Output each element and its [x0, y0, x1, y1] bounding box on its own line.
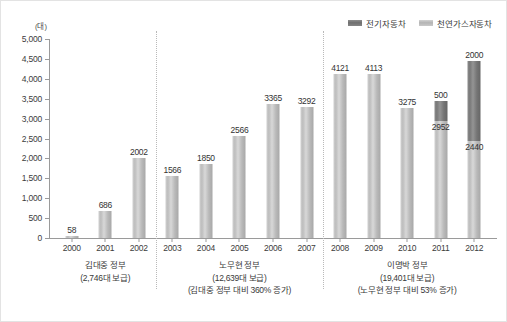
y-axis-tick	[45, 218, 49, 219]
bar-slot[interactable]: 582000	[55, 39, 89, 238]
bar-stack[interactable]: 3275	[401, 108, 414, 238]
y-axis-tick	[45, 119, 49, 120]
bar-stack[interactable]: 686	[99, 211, 112, 238]
bar-segment-cng[interactable]: 3365	[266, 104, 279, 238]
bar-value-label: 3292	[298, 96, 316, 106]
bar-value-label: 2952	[432, 122, 450, 132]
y-axis-tick	[45, 158, 49, 159]
bar-slot[interactable]: 200024402012	[457, 39, 491, 238]
plot-area: 5,0004,5004,0003,5003,0002,5002,0001,500…	[49, 39, 497, 238]
bar-stack[interactable]: 2566	[233, 136, 246, 238]
bar-segment-ev[interactable]: 500	[434, 101, 447, 121]
bar-slot[interactable]: 41132009	[357, 39, 391, 238]
bar-stack[interactable]: 4121	[334, 74, 347, 238]
x-axis-tick	[474, 238, 475, 242]
y-axis-tick	[45, 238, 49, 239]
y-axis-tick-label: 4,000	[22, 74, 42, 84]
bar-slot[interactable]: 6862001	[89, 39, 123, 238]
x-axis-tick-label: 2008	[331, 243, 349, 253]
bar-segment-cng[interactable]: 1566	[166, 176, 179, 238]
y-axis-line	[49, 39, 50, 238]
era-name: 노무현 정부	[156, 259, 324, 272]
bar-stack[interactable]: 1850	[199, 164, 212, 238]
era-total: (12,639대 보급)	[156, 272, 324, 285]
bar-segment-cng[interactable]: 3275	[401, 108, 414, 238]
bar-segment-cng[interactable]: 2952	[434, 121, 447, 238]
legend-label-ev: 전기자동차	[366, 17, 405, 29]
y-axis-tick-label: 0	[37, 233, 42, 243]
x-axis-tick	[138, 238, 139, 242]
era-caption: 노무현 정부(12,639대 보급)(김대중 정부 대비 360% 증가)	[156, 259, 324, 297]
bar-slot[interactable]: 25662005	[223, 39, 257, 238]
bar-slot[interactable]: 50029522011	[424, 39, 458, 238]
y-axis-tick	[45, 198, 49, 199]
y-axis-tick	[45, 79, 49, 80]
era-note: (김대중 정부 대비 360% 증가)	[156, 284, 324, 297]
y-axis-tick	[45, 59, 49, 60]
y-axis-unit-label: (대)	[35, 20, 47, 31]
bar-slot[interactable]: 41212008	[323, 39, 357, 238]
bar-slot[interactable]: 32922007	[290, 39, 324, 238]
bar-slot[interactable]: 20022002	[122, 39, 156, 238]
bar-value-label: 500	[434, 90, 447, 100]
bar-slot[interactable]: 15662003	[156, 39, 190, 238]
y-axis-tick-label: 3,500	[22, 94, 42, 104]
x-axis-tick-label: 2007	[297, 243, 315, 253]
bar-stack[interactable]: 3365	[266, 104, 279, 238]
bar-value-label: 2566	[231, 125, 249, 135]
era-total: (19,401대 보급)	[323, 272, 491, 285]
bar-value-label: 2440	[465, 142, 483, 152]
bar-stack[interactable]: 20002440	[468, 61, 481, 238]
bar-segment-cng[interactable]: 4113	[367, 74, 380, 238]
bar-segment-cng[interactable]: 4121	[334, 74, 347, 238]
bar-segment-cng[interactable]: 686	[99, 211, 112, 238]
x-axis-tick-label: 2005	[230, 243, 248, 253]
era-caption: 김대중 정부(2,746대 보급)	[55, 259, 156, 284]
bar-slot[interactable]: 32752010	[390, 39, 424, 238]
x-axis-tick-label: 2006	[264, 243, 282, 253]
y-axis-tick-label: 2,000	[22, 153, 42, 163]
legend-item-ev: 전기자동차	[348, 17, 405, 29]
bar-value-label: 4121	[331, 63, 349, 73]
x-axis-tick	[340, 238, 341, 242]
bar-segment-cng[interactable]: 2566	[233, 136, 246, 238]
bar-segment-cng[interactable]: 2002	[132, 158, 145, 238]
era-caption: 이명박 정부(19,401대 보급)(노무현 정부 대비 53% 증가)	[323, 259, 491, 297]
y-axis-tick-label: 3,000	[22, 114, 42, 124]
bar-value-label: 4113	[365, 63, 382, 73]
y-axis-tick	[45, 99, 49, 100]
bar-stack[interactable]: 3292	[300, 107, 313, 238]
y-axis-tick	[45, 178, 49, 179]
bar-segment-cng[interactable]: 1850	[199, 164, 212, 238]
bar-segment-ev[interactable]: 2000	[468, 61, 481, 141]
x-axis-tick	[105, 238, 106, 242]
bar-value-label: 686	[99, 200, 112, 210]
era-name: 김대중 정부	[55, 259, 156, 272]
legend-swatch-ev-icon	[348, 20, 362, 26]
y-axis-tick-label: 4,500	[22, 54, 42, 64]
era-note: (노무현 정부 대비 53% 증가)	[323, 284, 491, 297]
x-axis-tick	[239, 238, 240, 242]
y-axis-tick-label: 1,500	[22, 173, 42, 183]
era-divider	[323, 31, 324, 289]
bar-stack[interactable]: 4113	[367, 74, 380, 238]
bar-slot[interactable]: 18502004	[189, 39, 223, 238]
x-axis-tick-label: 2003	[163, 243, 181, 253]
bar-stack[interactable]: 1566	[166, 176, 179, 238]
bar-segment-cng[interactable]: 2440	[468, 141, 481, 238]
x-axis-tick	[172, 238, 173, 242]
x-axis-tick-label: 2009	[365, 243, 383, 253]
bar-stack[interactable]: 2002	[132, 158, 145, 238]
x-axis-tick-label: 2002	[130, 243, 148, 253]
x-axis-tick-label: 2011	[432, 243, 449, 253]
bar-stack[interactable]: 5002952	[434, 101, 447, 238]
x-axis-tick-label: 2010	[398, 243, 416, 253]
x-axis-tick	[407, 238, 408, 242]
bar-segment-cng[interactable]: 3292	[300, 107, 313, 238]
x-axis-tick-label: 2012	[465, 243, 483, 253]
legend-label-cng: 천연가스자동차	[437, 17, 492, 29]
y-axis-tick-label: 500	[28, 213, 42, 223]
bar-slot[interactable]: 33652006	[256, 39, 290, 238]
era-name: 이명박 정부	[323, 259, 491, 272]
legend-swatch-cng-icon	[419, 20, 433, 26]
